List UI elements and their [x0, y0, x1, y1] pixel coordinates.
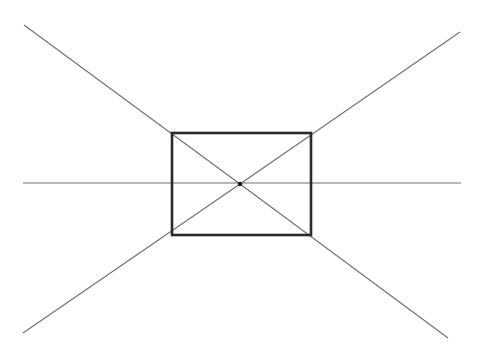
- diagram-svg: [0, 0, 477, 349]
- orthogonal-line-top-right: [240, 32, 460, 184]
- orthogonal-line-bottom-left: [23, 184, 240, 333]
- orthogonal-line-top-left: [24, 25, 240, 184]
- perspective-diagram: [0, 0, 477, 349]
- orthogonal-line-bottom-right: [240, 184, 448, 338]
- vanishing-point: [238, 182, 242, 186]
